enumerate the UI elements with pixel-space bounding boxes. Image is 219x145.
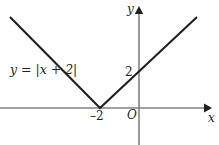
equation-label: y = |x + 2|: [10, 64, 77, 77]
x-axis-label: x: [208, 112, 215, 124]
y-axis-label: y: [127, 3, 134, 15]
vertex-tick-label: –2: [90, 110, 104, 122]
y-intercept-tick-label: 2: [125, 66, 133, 78]
x-axis: [0, 104, 212, 113]
y-axis-arrowhead: [135, 6, 143, 14]
origin-label: O: [127, 109, 137, 121]
graph-figure: y = |x + 2| y x O 2 –2: [0, 0, 219, 145]
